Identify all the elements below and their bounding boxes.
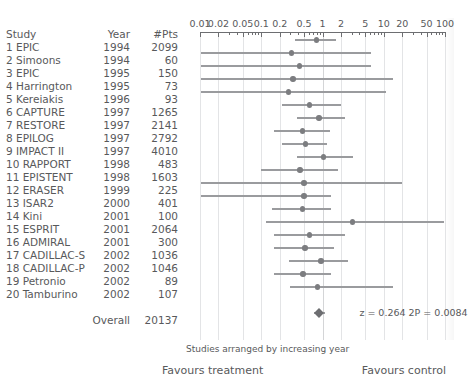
cell-year: 1995 bbox=[96, 80, 130, 93]
overall-label: Overall bbox=[86, 314, 130, 327]
effect-estimate-marker bbox=[289, 50, 294, 55]
cell-year: 1998 bbox=[96, 158, 130, 171]
axis-tick-major bbox=[280, 32, 281, 37]
axis-tick-minor bbox=[381, 32, 382, 35]
axis-tick-major bbox=[427, 32, 428, 37]
cell-study: 6 CAPTURE bbox=[6, 106, 65, 119]
cell-study: 10 RAPPORT bbox=[6, 158, 71, 171]
axis-tick-major bbox=[200, 32, 201, 37]
axis-tick-major bbox=[402, 32, 403, 37]
cell-pts: 93 bbox=[134, 93, 178, 106]
cell-pts: 1603 bbox=[134, 171, 178, 184]
axis-tick-minor bbox=[313, 32, 314, 35]
effect-estimate-marker bbox=[350, 219, 355, 224]
axis-tick-minor bbox=[298, 32, 299, 35]
axis-tick-minor bbox=[258, 32, 259, 35]
axis-tick-major bbox=[243, 32, 244, 37]
effect-estimate-marker bbox=[301, 193, 306, 198]
effect-estimate-marker bbox=[297, 167, 302, 172]
cell-study: 7 RESTORE bbox=[6, 119, 65, 132]
axis-tick-label: 5 bbox=[362, 18, 368, 29]
plot-panel: 0.010.020.050.10.20.5125102050100 z = 0.… bbox=[200, 18, 445, 340]
axis-tick-label: 1 bbox=[319, 18, 325, 29]
cell-study: 9 IMPACT II bbox=[6, 145, 64, 158]
axis-tick-label: 0.02 bbox=[208, 18, 229, 29]
cell-pts: 401 bbox=[134, 197, 178, 210]
favours-control-label: Favours control bbox=[362, 364, 446, 377]
sub-caption: Studies arranged by increasing year bbox=[186, 344, 349, 354]
axis-tick-minor bbox=[374, 32, 375, 35]
axis-tick-label: 20 bbox=[396, 18, 408, 29]
cell-study: 17 CADILLAC-S bbox=[6, 249, 85, 262]
cell-year: 1998 bbox=[96, 171, 130, 184]
axis-tick-label: 0.05 bbox=[232, 18, 253, 29]
axis-tick-minor bbox=[290, 32, 291, 35]
cell-year: 1997 bbox=[96, 106, 130, 119]
cell-pts: 73 bbox=[134, 80, 178, 93]
cell-study: 13 ISAR2 bbox=[6, 197, 54, 210]
axis-tick-label: 0.5 bbox=[296, 18, 311, 29]
axis-tick-minor bbox=[439, 32, 440, 35]
cell-pts: 89 bbox=[134, 275, 178, 288]
cell-study: 18 CADILLAC-P bbox=[6, 262, 85, 275]
cell-year: 2001 bbox=[96, 210, 130, 223]
overall-row: Overall 20137 bbox=[0, 314, 192, 327]
table-row: 20 Tamburino2002107 bbox=[0, 288, 192, 301]
effect-estimate-marker bbox=[286, 89, 291, 94]
axis-tick-minor bbox=[413, 32, 414, 35]
table-row: 6 CAPTURE19971265 bbox=[0, 106, 192, 119]
axis-tick-minor bbox=[431, 32, 432, 35]
axis-tick-minor bbox=[320, 32, 321, 35]
cell-study: 11 EPISTENT bbox=[6, 171, 73, 184]
cell-pts: 300 bbox=[134, 236, 178, 249]
effect-estimate-marker bbox=[300, 206, 305, 211]
confidence-interval-bar bbox=[290, 286, 393, 288]
effect-estimate-marker bbox=[300, 271, 305, 276]
cell-year: 2002 bbox=[96, 249, 130, 262]
cell-study: 5 Kereiakis bbox=[6, 93, 63, 106]
cell-study: 20 Tamburino bbox=[6, 288, 78, 301]
table-row: 18 CADILLAC-P20021046 bbox=[0, 262, 192, 275]
axis-tick-minor bbox=[248, 32, 249, 35]
axis-tick-major bbox=[218, 32, 219, 37]
cell-pts: 2064 bbox=[134, 223, 178, 236]
cell-year: 2001 bbox=[96, 223, 130, 236]
table-row: 17 CADILLAC-S20021036 bbox=[0, 249, 192, 262]
cell-year: 2002 bbox=[96, 262, 130, 275]
cell-year: 1994 bbox=[96, 41, 130, 54]
cell-study: 12 ERASER bbox=[6, 184, 64, 197]
axis-tick-major bbox=[304, 32, 305, 37]
cell-study: 2 Simoons bbox=[6, 54, 61, 67]
effect-estimate-marker bbox=[297, 63, 302, 68]
table-row: 4 Harrington199573 bbox=[0, 80, 192, 93]
axis-tick-minor bbox=[317, 32, 318, 35]
confidence-interval-bar bbox=[201, 65, 371, 67]
cell-pts: 150 bbox=[134, 67, 178, 80]
axis-tick-label: 0.2 bbox=[272, 18, 287, 29]
cell-study: 14 Kini bbox=[6, 210, 42, 223]
cell-year: 1995 bbox=[96, 67, 130, 80]
table-row: 14 Kini2001100 bbox=[0, 210, 192, 223]
axis-tick-minor bbox=[421, 32, 422, 35]
table-body: 1 EPIC199420992 Simoons1994603 EPIC19951… bbox=[0, 41, 192, 301]
header-year: Year bbox=[96, 28, 130, 41]
gridline bbox=[427, 32, 428, 340]
axis-tick-major bbox=[365, 32, 366, 37]
cell-pts: 1046 bbox=[134, 262, 178, 275]
table-row: 13 ISAR22000401 bbox=[0, 197, 192, 210]
axis-tick-label: 50 bbox=[421, 18, 433, 29]
axis-tick-major bbox=[323, 32, 324, 37]
cell-pts: 2792 bbox=[134, 132, 178, 145]
axis-tick-minor bbox=[436, 32, 437, 35]
cell-year: 2002 bbox=[96, 288, 130, 301]
table-row: 15 ESPRIT20012064 bbox=[0, 223, 192, 236]
effect-estimate-marker bbox=[290, 76, 295, 81]
cell-pts: 4010 bbox=[134, 145, 178, 158]
cell-study: 3 EPIC bbox=[6, 67, 39, 80]
axis-tick-major bbox=[384, 32, 385, 37]
cell-pts: 2099 bbox=[134, 41, 178, 54]
confidence-interval-bar bbox=[201, 52, 371, 54]
axis-tick-major bbox=[341, 32, 342, 37]
axis-tick-minor bbox=[352, 32, 353, 35]
